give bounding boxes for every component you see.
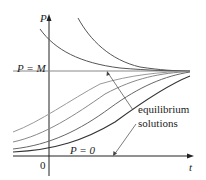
p-axis-arrow-icon — [47, 14, 52, 21]
lower-equilibrium-label: P = 0 — [70, 145, 95, 156]
pointer-to-p-0 — [114, 124, 136, 155]
logistic-solutions-diagram: P P = M P = 0 0 t equilibrium solutions — [0, 0, 206, 180]
annotation-solutions: solutions — [138, 118, 178, 129]
origin-label: 0 — [40, 160, 46, 171]
p-axis-label: P — [40, 13, 47, 24]
solution-curve-above-1 — [40, 29, 190, 71]
upper-equilibrium-label: P = M — [17, 63, 46, 74]
t-axis-label: t — [189, 162, 192, 173]
diagram-canvas — [0, 0, 206, 180]
t-axis-arrow-icon — [187, 154, 194, 159]
annotation-equilibrium: equilibrium — [138, 104, 189, 115]
